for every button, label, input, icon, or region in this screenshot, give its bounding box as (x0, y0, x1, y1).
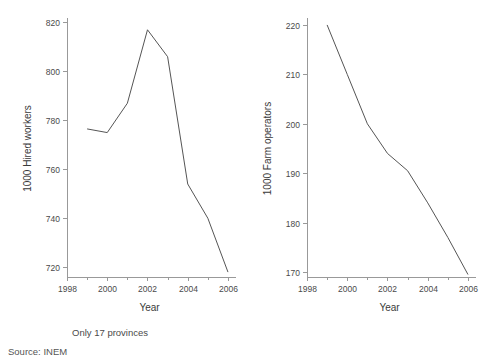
x-tick-label: 2006 (219, 284, 238, 294)
x-tick-label: 2000 (338, 284, 357, 294)
y-tick-label: 780 (46, 116, 60, 126)
note-provinces: Only 17 provinces (72, 327, 148, 338)
y-tick-label: 180 (286, 219, 300, 229)
x-tick-label: 2002 (138, 284, 157, 294)
y-tick-label: 200 (286, 120, 300, 130)
x-tick-label: 1998 (298, 284, 317, 294)
x-axis-title: Year (139, 302, 160, 313)
y-tick-label: 800 (46, 67, 60, 77)
y-tick-label: 820 (46, 18, 60, 28)
chart-panel-hired-workers: 7207407607808008201998200020022004200610… (0, 0, 246, 320)
y-tick-label: 760 (46, 165, 60, 175)
y-tick-label: 740 (46, 214, 60, 224)
x-tick-label: 2004 (179, 284, 198, 294)
note-source: Source: INEM (8, 346, 67, 357)
y-tick-label: 190 (286, 169, 300, 179)
x-tick-label: 2000 (98, 284, 117, 294)
x-axis-title: Year (379, 302, 400, 313)
x-tick-label: 2002 (378, 284, 397, 294)
y-tick-label: 210 (286, 70, 300, 80)
x-tick-label: 2006 (459, 284, 478, 294)
chart-panel-farm-operators: 1701801902002102201998200020022004200610… (240, 0, 486, 320)
y-axis-title: 1000 Hired workers (22, 105, 33, 192)
y-axis-title: 1000 Farm operators (262, 102, 273, 195)
y-tick-label: 220 (286, 21, 300, 31)
y-tick-label: 720 (46, 263, 60, 273)
x-tick-label: 2004 (419, 284, 438, 294)
x-tick-label: 1998 (58, 284, 77, 294)
data-series-line (327, 25, 468, 275)
data-series-line (87, 30, 228, 272)
y-tick-label: 170 (286, 268, 300, 278)
figure-container: 7207407607808008201998200020022004200610… (0, 0, 491, 360)
